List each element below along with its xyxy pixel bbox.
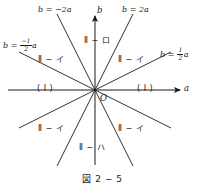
fraction-one-half: 12 [177, 47, 183, 61]
label-text-b-eq-minus-2a: b = −2a [38, 5, 71, 14]
label-line-b-eq-half-a: b = 12a [160, 47, 189, 61]
origin-label-o: O [100, 93, 107, 103]
axis-label-b: b [97, 5, 102, 15]
region-lower-left: Ⅱ − イ [38, 122, 64, 133]
fraction-minus-one-half: −12 [20, 38, 31, 52]
fraction-denominator-two-b: 2 [177, 54, 183, 62]
label-line-b-eq-minus-2a: b = −2a [38, 6, 71, 14]
region-right: ( Ⅰ ) [137, 84, 153, 93]
region-top: Ⅱ − ロ [84, 34, 110, 45]
region-left: ( Ⅰ ) [37, 84, 53, 93]
figure-2-5: b = −2a b = 2a b = −12a b = 12a b a O Ⅱ … [0, 0, 205, 192]
axis-label-a: a [184, 83, 189, 93]
fraction-denominator-two: 2 [20, 45, 31, 53]
region-bottom: Ⅱ − ハ [79, 141, 105, 152]
region-lower-right: Ⅱ − イ [118, 122, 144, 133]
fraction-numerator-minus-one: −1 [20, 38, 31, 45]
region-upper-right: Ⅱ − イ [118, 53, 144, 64]
label-prefix-minus-half: b = [3, 41, 20, 50]
label-suffix-half: a [184, 50, 189, 59]
label-line-b-eq-2a: b = 2a [122, 6, 149, 14]
label-prefix-half: b = [160, 50, 177, 59]
figure-caption: 図 2 − 5 [0, 172, 205, 185]
region-upper-left: Ⅱ − イ [38, 53, 64, 64]
label-suffix-minus-half: a [32, 41, 37, 50]
label-text-b-eq-2a: b = 2a [122, 5, 149, 14]
label-line-b-eq-minus-half-a: b = −12a [3, 38, 37, 52]
